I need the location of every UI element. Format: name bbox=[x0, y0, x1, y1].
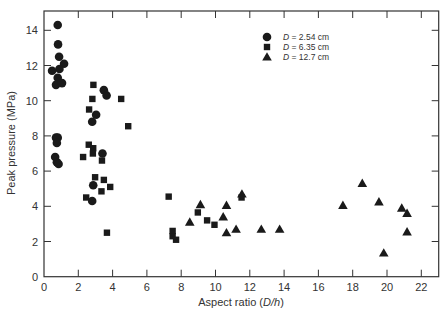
triangle-data-point bbox=[218, 212, 228, 220]
square-data-point bbox=[86, 106, 92, 112]
circle-data-point bbox=[53, 21, 62, 30]
circle-data-point bbox=[54, 40, 63, 49]
triangle-data-point bbox=[237, 189, 247, 197]
circle-legend-icon bbox=[263, 33, 272, 42]
x-tick-label: 0 bbox=[41, 281, 47, 293]
data-points bbox=[48, 21, 412, 257]
plot-frame bbox=[44, 11, 439, 277]
square-data-point bbox=[98, 188, 104, 194]
y-tick-label: 8 bbox=[32, 130, 38, 142]
square-data-point bbox=[104, 230, 110, 236]
x-tick-label: 22 bbox=[415, 281, 427, 293]
triangle-data-point bbox=[397, 203, 407, 211]
x-tick-label: 20 bbox=[381, 281, 393, 293]
legend-label: D = 12.7 cm bbox=[283, 52, 329, 62]
square-data-point bbox=[173, 237, 179, 243]
square-data-point bbox=[204, 217, 210, 223]
y-tick-label: 12 bbox=[26, 60, 38, 72]
square-data-point bbox=[125, 123, 131, 129]
square-data-point bbox=[89, 96, 95, 102]
x-axis-title: Aspect ratio (D/h) bbox=[198, 296, 284, 308]
circle-data-point bbox=[98, 149, 107, 158]
circle-data-point bbox=[58, 79, 67, 88]
square-data-point bbox=[118, 96, 124, 102]
y-tick-label: 4 bbox=[32, 200, 38, 212]
x-tick-label: 8 bbox=[178, 281, 184, 293]
triangle-data-point bbox=[402, 227, 412, 235]
square-data-point bbox=[101, 177, 107, 183]
triangle-data-point bbox=[338, 201, 348, 209]
circle-data-point bbox=[89, 181, 98, 190]
x-tick-label: 16 bbox=[312, 281, 324, 293]
x-tick-label: 2 bbox=[75, 281, 81, 293]
square-data-point bbox=[92, 174, 98, 180]
square-data-point bbox=[165, 193, 171, 199]
triangle-data-point bbox=[256, 224, 266, 232]
square-data-point bbox=[80, 154, 86, 160]
square-data-point bbox=[90, 150, 96, 156]
triangle-data-point bbox=[185, 217, 195, 225]
x-tick-label: 12 bbox=[244, 281, 256, 293]
square-legend-icon bbox=[264, 44, 270, 50]
square-data-point bbox=[195, 209, 201, 215]
y-tick-label: 6 bbox=[32, 165, 38, 177]
y-tick-label: 0 bbox=[32, 271, 38, 283]
circle-data-point bbox=[54, 160, 63, 169]
triangle-data-point bbox=[379, 248, 389, 256]
triangle-data-point bbox=[374, 197, 384, 205]
triangle-data-point bbox=[231, 224, 241, 232]
x-tick-label: 18 bbox=[347, 281, 359, 293]
legend: D = 2.54 cmD = 6.35 cmD = 12.7 cm bbox=[262, 32, 329, 62]
legend-label: D = 6.35 cm bbox=[283, 42, 329, 52]
circle-data-point bbox=[55, 65, 64, 74]
triangle-data-point bbox=[196, 200, 206, 208]
scatter-chart: 0246810121416182022 02468101214 D = 2.54… bbox=[0, 0, 447, 315]
y-tick-label: 14 bbox=[26, 24, 38, 36]
y-tick-label: 2 bbox=[32, 236, 38, 248]
circle-data-point bbox=[102, 91, 111, 100]
circle-data-point bbox=[48, 66, 57, 75]
triangle-data-point bbox=[222, 201, 232, 209]
y-axis-ticks: 02468101214 bbox=[26, 24, 439, 282]
circle-data-point bbox=[55, 52, 64, 61]
x-tick-label: 6 bbox=[144, 281, 150, 293]
triangle-legend-icon bbox=[262, 52, 272, 60]
legend-label: D = 2.54 cm bbox=[283, 32, 329, 42]
triangle-data-point bbox=[222, 228, 232, 236]
square-data-point bbox=[107, 184, 113, 190]
square-data-point bbox=[211, 222, 217, 228]
x-tick-label: 10 bbox=[209, 281, 221, 293]
square-data-point bbox=[99, 157, 105, 163]
x-tick-label: 14 bbox=[278, 281, 290, 293]
circle-data-point bbox=[88, 118, 97, 127]
triangle-data-point bbox=[275, 224, 285, 232]
triangle-data-point bbox=[358, 179, 368, 187]
y-axis-title: Peak pressure (MPa) bbox=[5, 91, 17, 195]
x-tick-label: 4 bbox=[110, 281, 116, 293]
circle-data-point bbox=[53, 139, 62, 148]
square-data-point bbox=[83, 194, 89, 200]
square-data-point bbox=[90, 82, 96, 88]
y-tick-label: 10 bbox=[26, 95, 38, 107]
